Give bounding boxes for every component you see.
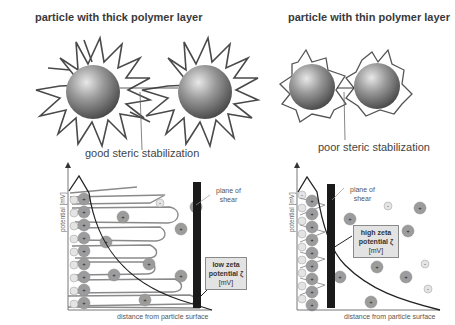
svg-text:+: + [338,274,342,280]
svg-text:+: + [112,272,116,278]
svg-text:+: + [404,274,408,280]
svg-text:-: - [424,261,426,267]
thick-layer-title: particle with thick polymer layer [35,11,203,23]
svg-text:+: + [310,250,314,256]
left-y-axis-label: potential [mV] [59,192,66,232]
left-shear-label: plane of shear [216,186,241,204]
svg-text:+: + [82,287,86,293]
svg-text:+: + [147,261,151,267]
good-stabilization-caption: good steric stabilization [85,147,199,159]
svg-text:+: + [143,297,147,303]
svg-text:+: + [310,302,314,308]
svg-text:-: - [159,200,161,206]
svg-text:+: + [82,235,86,241]
right-x-axis-label: distance from particle surface [344,313,435,320]
svg-text:+: + [82,274,86,280]
particle-sphere [289,64,335,110]
right-zeta-box: high zeta potential ζ [mV] [353,225,399,258]
right-y-axis-label: potential [mV] [288,192,295,232]
particle-sphere [178,65,232,119]
svg-text:+: + [375,264,379,270]
left-x-axis-label: distance from particle surface [117,313,208,320]
poor-stabilization-caption: poor steric stabilization [318,141,430,153]
svg-text:-: - [387,203,389,209]
particle-sphere [66,65,120,119]
svg-text:+: + [310,237,314,243]
left-zeta-box: low zeta potential ζ [mV] [205,257,247,290]
right-shear-label: plane of shear [350,185,375,203]
svg-text:+: + [406,228,410,234]
svg-text:+: + [348,216,352,222]
caption-pointer [344,92,345,140]
particle-sphere [354,63,400,109]
svg-text:-: - [301,192,303,198]
shear-plane [193,182,201,308]
svg-text:+: + [121,214,125,220]
svg-text:+: + [310,289,314,295]
svg-text:-: - [427,286,429,292]
svg-text:+: + [310,211,314,217]
svg-text:+: + [310,276,314,282]
left-graph: +++ +++ +++ +++ +++ ++ - [68,165,212,310]
thin-layer-title: particle with thin polymer layer [288,11,450,23]
svg-text:+: + [418,205,422,211]
shear-plane [327,184,335,308]
svg-text:+: + [179,226,183,232]
svg-text:+: + [82,248,86,254]
svg-text:+: + [179,273,183,279]
svg-text:+: + [310,224,314,230]
svg-text:+: + [310,198,314,204]
svg-text:+: + [82,196,86,202]
svg-text:+: + [82,222,86,228]
svg-text:+: + [82,300,86,306]
svg-text:+: + [310,263,314,269]
svg-text:+: + [369,299,373,305]
svg-text:+: + [82,209,86,215]
svg-text:+: + [82,261,86,267]
